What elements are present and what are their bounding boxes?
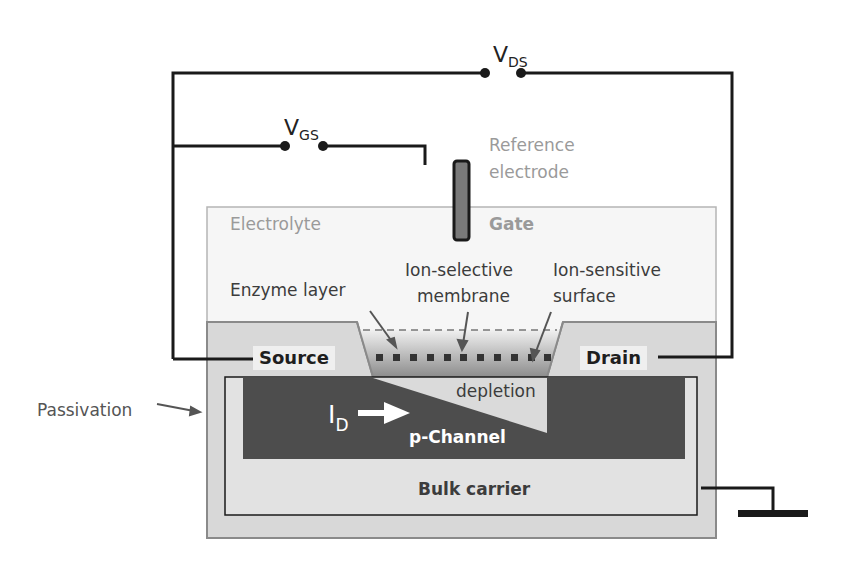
diagram-graphics bbox=[0, 0, 845, 561]
vds-terminal-left bbox=[480, 68, 490, 78]
source-label: Source bbox=[253, 346, 335, 370]
electrolyte-label: Electrolyte bbox=[230, 216, 321, 233]
bulk-carrier-label: Bulk carrier bbox=[418, 481, 530, 498]
ion-selective-membrane-label-line2: membrane bbox=[417, 288, 510, 305]
ground-icon bbox=[738, 510, 808, 517]
vds-label: VDS bbox=[493, 44, 528, 69]
depletion-label: depletion bbox=[456, 383, 536, 400]
vgs-label: VGS bbox=[284, 117, 319, 142]
enzyme-layer-label: Enzyme layer bbox=[230, 282, 346, 299]
drain-label: Drain bbox=[580, 346, 647, 370]
gate-label: Gate bbox=[489, 216, 534, 233]
reference-electrode bbox=[454, 161, 469, 240]
ion-selective-membrane-label-line1: Ion-selective bbox=[405, 262, 513, 279]
reference-electrode-label-line1: Reference bbox=[489, 137, 575, 154]
reference-electrode-label-line2: electrode bbox=[489, 164, 569, 181]
p-channel-label: p-Channel bbox=[409, 429, 506, 446]
ion-sensitive-surface-label-line1: Ion-sensitive bbox=[553, 262, 661, 279]
passivation-label: Passivation bbox=[37, 402, 132, 419]
vgs-terminal-right bbox=[318, 141, 328, 151]
vgs-terminal-left bbox=[280, 141, 290, 151]
drain-current-label: ID bbox=[328, 402, 348, 434]
isfet-diagram: VDS VGS Reference electrode Electrolyte … bbox=[0, 0, 845, 561]
ion-sensitive-surface-label-line2: surface bbox=[553, 288, 616, 305]
